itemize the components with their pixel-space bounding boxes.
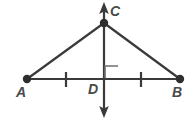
segment-ac (27, 23, 104, 79)
vertex-dot-b (176, 75, 184, 83)
vertex-label-a: A (16, 85, 26, 99)
vertex-label-c: C (110, 4, 120, 18)
geometry-canvas (0, 0, 195, 126)
segment-cb (104, 23, 180, 79)
right-angle-mark-icon (105, 66, 118, 78)
vertex-dot-c (100, 19, 108, 27)
geometry-diagram: A B C D (0, 0, 195, 126)
vertex-dot-a (23, 75, 31, 83)
vertex-label-d: D (88, 82, 98, 96)
vertex-label-b: B (172, 85, 182, 99)
